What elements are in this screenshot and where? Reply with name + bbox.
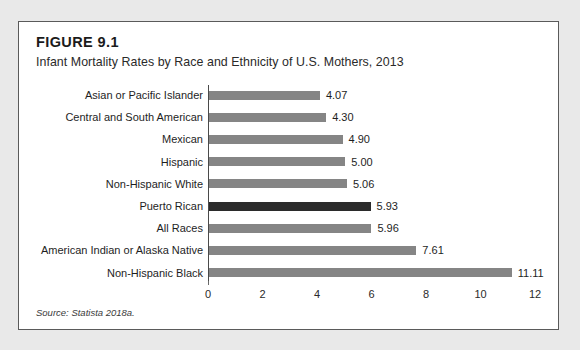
category-label: All Races <box>3 222 203 234</box>
bar <box>209 113 326 122</box>
bar-value-label: 7.61 <box>422 244 443 256</box>
x-axis-tick-label: 0 <box>196 288 220 300</box>
bar <box>209 224 371 233</box>
bar <box>209 268 512 277</box>
category-label-row: Non-Hispanic White <box>3 178 203 190</box>
x-axis-tick-label: 2 <box>251 288 275 300</box>
bar-value-label: 5.06 <box>353 178 374 190</box>
bar-value-label: 5.00 <box>351 156 372 168</box>
x-axis-tick-mark <box>208 281 209 285</box>
x-axis-tick-label: 4 <box>305 288 329 300</box>
bar <box>209 179 347 188</box>
category-label: Mexican <box>3 133 203 145</box>
category-label-row: Hispanic <box>3 156 203 168</box>
bar <box>209 202 371 211</box>
category-label: Asian or Pacific Islander <box>3 89 203 101</box>
category-label-row: Central and South American <box>3 111 203 123</box>
bar-value-label: 5.93 <box>377 200 398 212</box>
category-label: Central and South American <box>3 111 203 123</box>
category-label-row: All Races <box>3 222 203 234</box>
category-label: Hispanic <box>3 156 203 168</box>
category-label: Puerto Rican <box>3 200 203 212</box>
bar-value-label: 11.11 <box>518 267 544 279</box>
category-label: Non-Hispanic White <box>3 178 203 190</box>
x-axis-tick-label: 8 <box>414 288 438 300</box>
bar-value-label: 5.96 <box>377 222 398 234</box>
x-axis-tick-label: 12 <box>523 288 547 300</box>
category-label: Non-Hispanic Black <box>3 267 203 279</box>
bar-value-label: 4.07 <box>326 89 347 101</box>
category-label-row: Puerto Rican <box>3 200 203 212</box>
x-axis-tick-label: 10 <box>469 288 493 300</box>
bar-value-label: 4.30 <box>332 111 353 123</box>
category-label-row: Asian or Pacific Islander <box>3 89 203 101</box>
x-axis-tick-label: 6 <box>360 288 384 300</box>
category-label-row: Non-Hispanic Black <box>3 267 203 279</box>
category-label-row: Mexican <box>3 133 203 145</box>
category-label: American Indian or Alaska Native <box>3 244 203 256</box>
bar-value-label: 4.90 <box>349 133 370 145</box>
bar <box>209 157 345 166</box>
bar <box>209 135 343 144</box>
source-note: Source: Statista 2018a. <box>36 307 135 318</box>
bar <box>209 246 416 255</box>
figure-panel: FIGURE 9.1 Infant Mortality Rates by Rac… <box>18 21 559 330</box>
bar <box>209 91 320 100</box>
category-label-row: American Indian or Alaska Native <box>3 244 203 256</box>
bar-chart: Asian or Pacific Islander4.07Central and… <box>19 22 560 331</box>
